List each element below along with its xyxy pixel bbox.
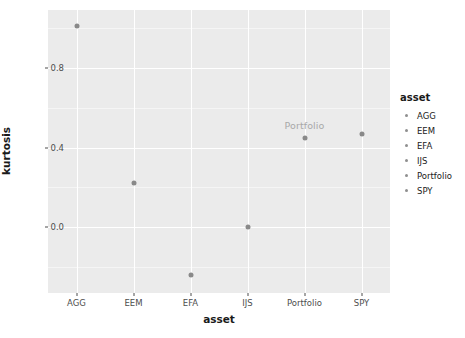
data-point xyxy=(74,23,79,28)
y-axis-tick-label: 0.8 xyxy=(50,63,64,73)
x-axis-tick-mark xyxy=(361,293,362,296)
gridline-major-vertical xyxy=(305,10,306,293)
legend-item[interactable]: IJS xyxy=(399,153,452,168)
gridline-major-vertical xyxy=(191,10,192,293)
legend-item-label: EFA xyxy=(417,141,432,151)
data-point xyxy=(245,225,250,230)
gridline-major-horizontal xyxy=(48,227,390,228)
data-point xyxy=(188,273,193,278)
data-point xyxy=(359,131,364,136)
y-axis-tick-mark xyxy=(45,147,48,148)
legend-item[interactable]: Portfolio xyxy=(399,168,452,183)
legend-items: AGGEEMEFAIJSPortfolioSPY xyxy=(399,108,452,198)
y-axis-tick-label: 0.4 xyxy=(50,143,64,153)
x-axis-tick-mark xyxy=(76,293,77,296)
legend-item[interactable]: EEM xyxy=(399,123,452,138)
x-axis-tick-label: IJS xyxy=(242,298,252,308)
plot-panel: Portfolio xyxy=(48,10,390,293)
x-axis-tick-mark xyxy=(133,293,134,296)
legend-item-label: AGG xyxy=(417,111,436,121)
gridline-major-vertical xyxy=(248,10,249,293)
legend-key-dot-icon xyxy=(399,123,414,138)
x-axis-title: asset xyxy=(48,313,390,325)
gridline-minor-horizontal xyxy=(48,187,390,188)
legend-key-dot-icon xyxy=(399,183,414,198)
legend-title: asset xyxy=(399,92,452,103)
x-axis-tick-mark xyxy=(304,293,305,296)
gridline-major-vertical xyxy=(77,10,78,293)
legend-item-label: EEM xyxy=(417,126,435,136)
x-axis-tick-mark xyxy=(247,293,248,296)
x-axis-tick-label: SPY xyxy=(354,298,370,308)
legend-key-dot-icon xyxy=(399,138,414,153)
legend-key-dot-icon xyxy=(399,108,414,123)
gridline-minor-horizontal xyxy=(48,108,390,109)
gridline-major-horizontal xyxy=(48,148,390,149)
scatter-plot-figure: Portfolio 0.80.40.0 kurtosis AGGEEMEFAIJ… xyxy=(0,0,465,338)
x-axis-tick-label: AGG xyxy=(67,298,86,308)
x-axis-tick-label: Portfolio xyxy=(287,298,322,308)
legend-item[interactable]: AGG xyxy=(399,108,452,123)
data-point xyxy=(302,135,307,140)
x-axis-tick-label: EFA xyxy=(183,298,198,308)
legend-item-label: IJS xyxy=(417,156,427,166)
y-axis-tick-label: 0.0 xyxy=(50,222,64,232)
gridline-major-vertical xyxy=(134,10,135,293)
gridline-major-vertical xyxy=(362,10,363,293)
legend-item-label: SPY xyxy=(417,186,433,196)
legend-item-label: Portfolio xyxy=(417,171,452,181)
legend-item[interactable]: SPY xyxy=(399,183,452,198)
x-axis-tick-label: EEM xyxy=(124,298,142,308)
data-point xyxy=(131,181,136,186)
gridline-minor-horizontal xyxy=(48,267,390,268)
legend-item[interactable]: EFA xyxy=(399,138,452,153)
y-axis-tick-mark xyxy=(45,67,48,68)
gridline-major-horizontal xyxy=(48,68,390,69)
x-axis-tick-mark xyxy=(190,293,191,296)
legend-key-dot-icon xyxy=(399,168,414,183)
y-axis-title: kurtosis xyxy=(0,127,12,175)
legend: asset AGGEEMEFAIJSPortfolioSPY xyxy=(399,92,452,198)
data-point-label: Portfolio xyxy=(285,120,325,131)
gridline-minor-horizontal xyxy=(48,28,390,29)
y-axis-tick-mark xyxy=(45,227,48,228)
legend-key-dot-icon xyxy=(399,153,414,168)
